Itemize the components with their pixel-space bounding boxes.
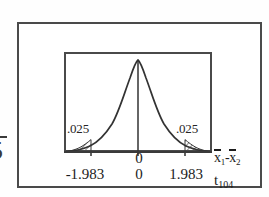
axis-label-left-critical: -1.983 — [57, 166, 113, 183]
axis-label-center: 0 — [128, 166, 150, 183]
distribution-plot — [64, 52, 212, 156]
clipped-left-edge-label: 5 — [0, 133, 10, 167]
axis-label-right-critical: 1.983 — [160, 166, 212, 183]
secondary-axis-center-label: 0 — [128, 150, 150, 167]
mean-difference-axis-label: x1-x2 — [214, 148, 264, 171]
clipped-glyph: 5 — [0, 134, 3, 167]
t-distribution-figure: 5 .025 .025 0 -1.983 0 1.983 x1-x2 t104 — [0, 0, 269, 197]
x-bar-two-subscript: 2 — [236, 157, 240, 167]
x-bar-two: x — [229, 148, 236, 166]
left-tail-probability-label: .025 — [67, 121, 89, 137]
t-statistic-axis-label: t104 — [214, 171, 264, 194]
right-tail-probability-label: .025 — [176, 121, 198, 137]
axis-scale-identifiers: x1-x2 t104 — [214, 148, 264, 193]
degrees-of-freedom-subscript: 104 — [218, 178, 233, 189]
x-bar-one: x — [214, 148, 221, 166]
